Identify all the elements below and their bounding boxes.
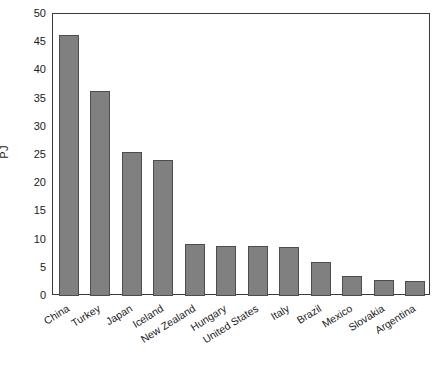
y-tick-label: 25 bbox=[0, 148, 52, 160]
bar bbox=[374, 280, 394, 296]
bar bbox=[311, 262, 331, 296]
bar bbox=[59, 35, 79, 296]
y-tick-label: 0 bbox=[0, 289, 52, 301]
y-tick-label: 30 bbox=[0, 120, 52, 132]
y-tick-label: 5 bbox=[0, 261, 52, 273]
y-tick-label: 10 bbox=[0, 233, 52, 245]
bar bbox=[342, 276, 362, 296]
bar bbox=[248, 246, 268, 296]
y-tick-label: 45 bbox=[0, 35, 52, 47]
y-tick-label: 15 bbox=[0, 204, 52, 216]
bar-chart-figure: PJ 05101520253035404550 ChinaTurkeyJapan… bbox=[0, 0, 447, 365]
bar bbox=[90, 91, 110, 296]
bar bbox=[153, 160, 173, 296]
y-tick-label: 40 bbox=[0, 63, 52, 75]
y-tick-label: 35 bbox=[0, 92, 52, 104]
bar bbox=[185, 244, 205, 296]
bar bbox=[122, 152, 142, 296]
y-tick-label: 20 bbox=[0, 176, 52, 188]
y-tick-label: 50 bbox=[0, 7, 52, 19]
bar bbox=[216, 246, 236, 296]
bar bbox=[279, 247, 299, 296]
bar bbox=[405, 281, 425, 296]
plot-area bbox=[52, 13, 430, 295]
